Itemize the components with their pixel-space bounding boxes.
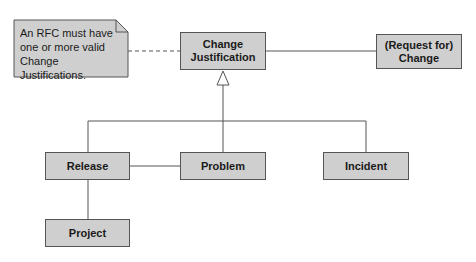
note-line: one or more valid [20, 40, 120, 54]
node-change-justification[interactable]: Change Justification [180, 32, 266, 70]
note-line: An RFC must have [20, 26, 120, 40]
node-project[interactable]: Project [45, 219, 130, 247]
node-request-for-change[interactable]: (Request for) Change [376, 34, 462, 69]
node-problem[interactable]: Problem [180, 152, 266, 180]
generalization-arrow-icon [217, 71, 229, 85]
note-text: An RFC must have one or more valid Chang… [20, 26, 120, 82]
node-incident[interactable]: Incident [323, 152, 409, 180]
note: An RFC must have one or more valid Chang… [14, 20, 128, 77]
node-release[interactable]: Release [45, 152, 130, 180]
note-line: Change Justifications. [20, 54, 120, 82]
